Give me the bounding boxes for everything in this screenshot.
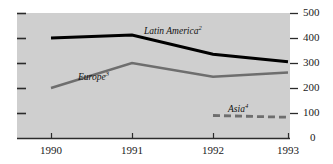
y-tick-label-300: 300	[303, 57, 320, 68]
x-tick-label-1992: 1992	[202, 145, 224, 156]
y-tick-label-500: 500	[303, 7, 320, 18]
chart-plot-area	[0, 0, 333, 164]
series-annotation-europe-text: Europe	[78, 72, 106, 82]
y-axis-ticks-right	[290, 14, 298, 114]
series-annotation-latin-america-footnote: 2	[198, 24, 201, 31]
x-tick-label-1990: 1990	[40, 145, 62, 156]
series-annotation-europe-footnote: 3	[106, 70, 109, 77]
chart-figure: 500 400 300 200 100 0 1990 1991 1992 199…	[0, 0, 333, 164]
series-annotation-asia: Asia4	[228, 105, 248, 115]
x-tick-label-1991: 1991	[121, 145, 143, 156]
y-tick-label-400: 400	[303, 32, 320, 43]
series-annotation-latin-america: Latin America2	[144, 27, 202, 37]
y-tick-label-200: 200	[303, 82, 320, 93]
series-annotation-asia-footnote: 4	[245, 102, 248, 109]
y-tick-label-100: 100	[303, 107, 320, 118]
x-tick-label-1993: 1993	[277, 145, 299, 156]
series-annotation-asia-text: Asia	[228, 104, 245, 114]
y-tick-label-0: 0	[310, 132, 316, 143]
series-annotation-europe: Europe3	[78, 73, 109, 83]
series-annotation-latin-america-text: Latin America	[144, 26, 198, 36]
